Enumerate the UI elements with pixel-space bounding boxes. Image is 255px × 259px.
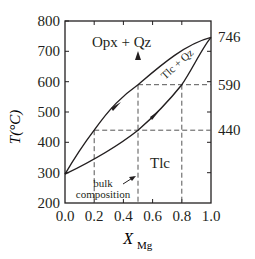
svg-text:0.8: 0.8 [172,208,191,224]
svg-text:0.6: 0.6 [143,208,162,224]
y-axis-title: T(°C) [7,110,24,144]
svg-text:500: 500 [38,104,61,120]
annotation-composition: composition [76,188,131,200]
region-label-opx-qz: Opx + Qz [92,34,152,50]
svg-text:400: 400 [38,134,61,150]
svg-text:800: 800 [38,13,61,29]
svg-text:600: 600 [38,74,61,90]
x-axis-title-main: X [122,230,134,247]
svg-text:0.0: 0.0 [56,208,75,224]
svg-text:700: 700 [38,43,61,59]
right-axis-labels: 746 590 440 [218,29,241,138]
arrow-lower-curve-icon [150,110,160,120]
x-axis-title-sub: Mg [137,239,153,251]
bulk-arrowhead-icon [129,176,136,181]
svg-text:746: 746 [218,29,241,45]
svg-text:440: 440 [218,122,241,138]
svg-text:0.2: 0.2 [85,208,104,224]
arrow-up-icon [135,51,141,60]
phase-diagram: Opx + Qz Tlc + Qz Tlc bulk composition 8… [0,0,255,259]
svg-text:0.4: 0.4 [114,208,133,224]
svg-text:300: 300 [38,165,61,181]
x-tick-labels: 0.0 0.2 0.4 0.6 0.8 1.0 [56,208,221,224]
svg-text:1.0: 1.0 [202,208,221,224]
path-arrows [111,51,160,120]
y-tick-labels: 800 700 600 500 400 300 200 [38,13,61,211]
region-label-tlc: Tlc [150,155,170,171]
svg-text:590: 590 [218,77,241,93]
